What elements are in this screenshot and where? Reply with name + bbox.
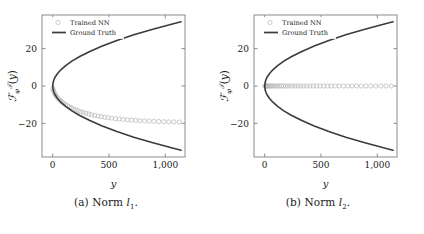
- trained-nn-marker: [354, 84, 358, 88]
- trained-nn-marker: [87, 112, 91, 116]
- trained-nn-marker: [147, 119, 151, 123]
- caption-b-word: Norm: [304, 196, 335, 208]
- trained-nn-marker: [167, 120, 171, 124]
- x-tick-label: 0: [262, 160, 268, 170]
- caption-a-period: .: [135, 196, 138, 208]
- y-tick-label: 20: [26, 44, 38, 54]
- trained-nn-marker: [374, 84, 378, 88]
- y-axis-title: ℱφ𝒯(y): [6, 70, 21, 102]
- trained-nn-marker: [81, 110, 85, 114]
- trained-nn-marker: [142, 119, 146, 123]
- figure-row: 05001,000200−20Trained NNGround Truthyℱφ…: [0, 0, 424, 234]
- trained-nn-marker: [172, 120, 176, 124]
- x-axis-title: y: [110, 178, 117, 189]
- caption-b-period: .: [347, 196, 350, 208]
- panel-a: 05001,000200−20Trained NNGround Truthyℱφ…: [0, 0, 212, 234]
- legend: Trained NNGround Truth: [48, 17, 124, 39]
- legend-ground-truth-label: Ground Truth: [282, 29, 329, 37]
- trained-nn-marker: [384, 84, 388, 88]
- panel-b: 05001,000200−20Trained NNGround Truthyℱφ…: [212, 0, 424, 234]
- y-tick-label: −20: [230, 119, 249, 129]
- x-axis-title: y: [322, 178, 329, 189]
- caption-b-prefix: (b): [286, 196, 301, 208]
- trained-nn-marker: [364, 84, 368, 88]
- trained-nn-marker: [134, 118, 138, 122]
- legend-ground-truth-label: Ground Truth: [70, 29, 117, 37]
- trained-nn-marker: [125, 118, 129, 122]
- x-tick-label: 500: [100, 160, 117, 170]
- trained-nn-marker: [157, 119, 161, 123]
- x-tick-label: 1,000: [364, 160, 390, 170]
- trained-nn-marker: [152, 119, 156, 123]
- y-axis-title-text: ℱφ𝒯(y): [218, 70, 233, 102]
- trained-nn-marker: [162, 120, 166, 124]
- trained-nn-marker: [359, 84, 363, 88]
- plot-area-b: 05001,000200−20Trained NNGround Truthyℱφ…: [212, 0, 424, 196]
- caption-b: (b) Norm l2.: [212, 196, 424, 211]
- plot-area-a: 05001,000200−20Trained NNGround Truthyℱφ…: [0, 0, 212, 196]
- caption-a: (a) Norm l1.: [0, 196, 212, 211]
- x-tick-label: 500: [312, 160, 329, 170]
- trained-nn-series: [51, 86, 182, 124]
- chart-svg-b: 05001,000200−20Trained NNGround Truthyℱφ…: [212, 0, 424, 196]
- caption-a-word: Norm: [92, 196, 123, 208]
- x-tick-label: 0: [50, 160, 56, 170]
- y-axis-title-text: ℱφ𝒯(y): [6, 70, 21, 102]
- y-tick-label: 0: [31, 81, 37, 91]
- ground-truth-lower-branch: [265, 86, 393, 150]
- trained-nn-marker: [379, 84, 383, 88]
- trained-nn-marker: [341, 84, 345, 88]
- y-tick-label: 0: [243, 81, 249, 91]
- legend: Trained NNGround Truth: [260, 17, 336, 39]
- ground-truth-lower-branch: [53, 86, 181, 150]
- trained-nn-marker: [346, 84, 350, 88]
- ground-truth-series: [53, 22, 181, 151]
- trained-nn-marker: [369, 84, 373, 88]
- caption-a-prefix: (a): [74, 196, 89, 208]
- trained-nn-marker: [138, 119, 142, 123]
- trained-nn-marker: [337, 84, 341, 88]
- y-tick-label: −20: [18, 119, 37, 129]
- y-axis-title: ℱφ𝒯(y): [218, 70, 233, 102]
- chart-svg-a: 05001,000200−20Trained NNGround Truthyℱφ…: [0, 0, 212, 196]
- trained-nn-series: [263, 84, 394, 88]
- trained-nn-marker: [350, 84, 354, 88]
- y-axis-title-argument-close: ): [218, 70, 230, 74]
- trained-nn-marker: [129, 118, 133, 122]
- legend-trained-nn-label: Trained NN: [282, 19, 322, 27]
- y-tick-label: 20: [238, 44, 250, 54]
- y-axis-title-argument-close: ): [6, 70, 18, 74]
- legend-trained-nn-label: Trained NN: [70, 19, 110, 27]
- trained-nn-marker: [79, 110, 83, 114]
- trained-nn-marker: [84, 111, 88, 115]
- trained-nn-marker: [121, 117, 125, 121]
- x-tick-label: 1,000: [152, 160, 178, 170]
- trained-nn-marker: [177, 120, 181, 124]
- trained-nn-marker: [389, 84, 393, 88]
